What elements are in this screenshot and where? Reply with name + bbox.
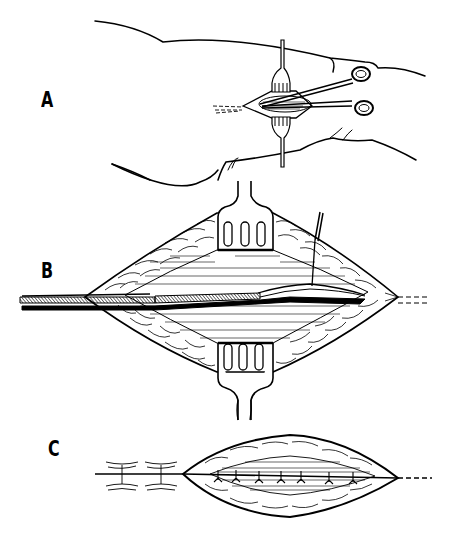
limb-lower-contour: [112, 138, 416, 180]
panel-a-retractor-bottom: [272, 117, 290, 167]
panel-c-closure: [95, 400, 432, 517]
illustration-svg: [0, 0, 451, 539]
panel-b-retractor-top: [218, 181, 273, 250]
limb-upper-contour: [95, 21, 425, 76]
panel-a-retractor-top: [272, 40, 290, 92]
figure-canvas: A B C: [0, 0, 451, 539]
